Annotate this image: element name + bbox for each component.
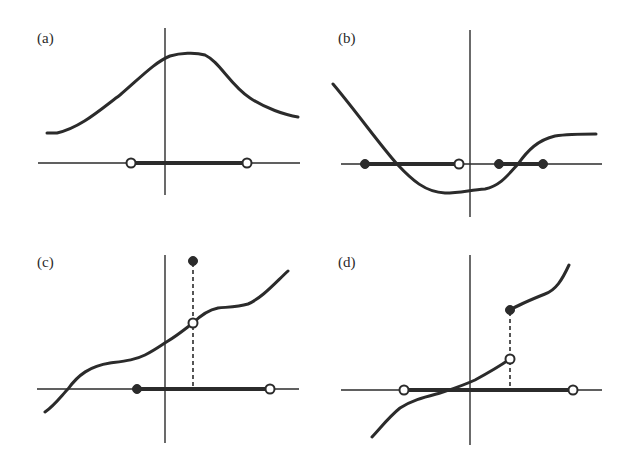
panel-d-open-endpoint-right <box>569 386 578 395</box>
panel-d-lower-curve <box>372 359 510 437</box>
function-graphs-figure: (a) (b) (c) (d) <box>0 0 632 471</box>
panel-b-open-endpoint <box>455 160 464 169</box>
panel-d-upper-curve <box>510 265 569 310</box>
panel-c <box>37 255 299 443</box>
panel-d <box>341 255 602 445</box>
panel-b-closed-endpoint-3 <box>539 160 548 169</box>
panel-b-closed-endpoint-1 <box>361 160 370 169</box>
panel-c-hole-on-curve <box>189 319 198 328</box>
panel-b <box>333 30 602 217</box>
panel-c-closed-endpoint <box>133 385 142 394</box>
panel-c-function-value-point <box>189 257 198 266</box>
panel-b-closed-endpoint-2 <box>495 160 504 169</box>
panel-c-open-endpoint <box>266 385 275 394</box>
panel-d-open-endpoint-left <box>400 386 409 395</box>
panel-a-curve <box>47 53 298 133</box>
graphs-canvas <box>0 0 632 471</box>
panel-a-open-endpoint-right <box>243 159 252 168</box>
panel-a <box>38 28 300 195</box>
panel-d-lower-branch-open-end <box>506 355 515 364</box>
panel-d-upper-branch-closed-start <box>506 306 515 315</box>
panel-b-curve <box>333 84 596 193</box>
panel-a-open-endpoint-left <box>127 159 136 168</box>
